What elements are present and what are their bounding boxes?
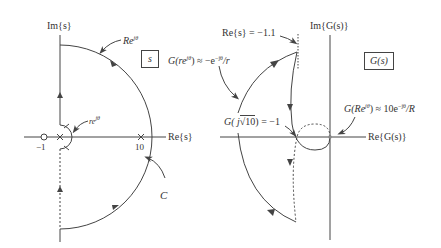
arc-arrow-icon (270, 60, 279, 68)
jw-image-lower-dashed (293, 124, 330, 222)
s-plane-title-box: s (141, 50, 159, 68)
small-arc-label: rejθ (89, 115, 100, 126)
up-arrow-icon (57, 92, 63, 98)
large-R-mapping-label: G(Rejθ) ≈ 10e−jθ/R (344, 103, 415, 114)
g-re-axis-label: Re{G(s)} (368, 132, 406, 142)
g-plane-title-box: G(s) (364, 52, 394, 70)
arc-arrow-icon (267, 209, 275, 216)
down-arrow-icon (287, 159, 293, 166)
pointer-arrow (219, 66, 236, 97)
g-im-axis-label: Im{G(s)} (310, 21, 348, 31)
small-r-mapping-label: G(rejθ) ≈ −e−jθ/r (168, 55, 230, 66)
pointer-arrow (75, 121, 88, 130)
s-im-axis-label: Im{s} (47, 21, 72, 31)
zero-marker (41, 134, 47, 140)
s-re-axis-label: Re{s} (168, 132, 193, 142)
g-plane (219, 34, 366, 240)
small-r-image-upper (238, 52, 297, 113)
up-arrow-icon (57, 186, 63, 192)
large-arc-label: Rejθ (123, 35, 138, 46)
crossing-label: G( j√10) = −1 (224, 117, 280, 127)
pointer-arrow (102, 40, 121, 51)
pointer-arrow (148, 158, 165, 178)
small-r-image-lower (238, 133, 296, 222)
nyquist-diagram (0, 0, 441, 248)
zero-label: −1 (36, 143, 46, 152)
arc-arrow-icon (112, 205, 119, 210)
pointer-arrow (341, 117, 355, 133)
pointer-arrow (280, 36, 294, 42)
contour-label: C (160, 190, 167, 201)
asymptote-label: Re{s} = −1.1 (222, 28, 275, 38)
jw-image-upper (291, 52, 330, 150)
down-arrow-icon (287, 104, 293, 111)
pole-label: 10 (135, 143, 144, 152)
